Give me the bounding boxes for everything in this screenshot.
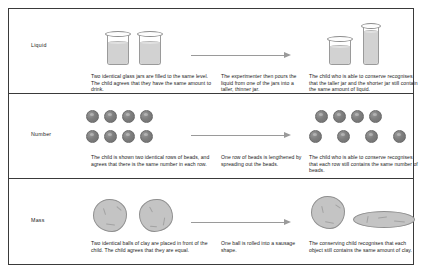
bead [351, 110, 364, 123]
jar-liquid [330, 46, 350, 64]
jar-short [327, 36, 353, 65]
jar-liquid-surface [364, 30, 378, 33]
clay-crease [106, 223, 115, 225]
bead [104, 130, 117, 143]
arrow-shaft [191, 135, 285, 136]
bead [122, 130, 135, 143]
clay-crease [321, 206, 323, 213]
clay-crease [149, 207, 153, 213]
bead [86, 130, 99, 143]
clay-ball [139, 199, 173, 232]
clay-ball [311, 196, 345, 229]
clay-crease [325, 221, 334, 224]
jar-liquid-surface [140, 41, 160, 44]
jar-rim [361, 23, 381, 29]
arrow-shaft [191, 222, 285, 223]
jar-liquid-surface [108, 41, 128, 44]
jar-right [137, 31, 163, 65]
figure-row-mass: Mass [9, 179, 413, 265]
row-label-liquid: Liquid [31, 42, 91, 48]
jar-rim [105, 31, 131, 37]
jar-rim [327, 36, 353, 42]
bead [337, 130, 350, 143]
row-label-mass: Mass [31, 217, 91, 223]
jar-rim [137, 31, 163, 37]
arrow-head [284, 219, 291, 225]
conservation-tasks-figure: Liquid [8, 8, 414, 265]
jar-liquid [108, 42, 128, 64]
caption-transform: One ball is rolled into a sausage shape. [221, 240, 303, 253]
clay-crease [366, 216, 368, 223]
jar-liquid [364, 31, 378, 64]
arrow-head [284, 52, 291, 58]
jar-tall-thin [361, 23, 381, 65]
clay-sausage [353, 211, 415, 228]
bead [393, 130, 406, 143]
figure-row-number: Number The child is show [9, 94, 413, 179]
arrow-shaft [191, 55, 285, 56]
caption-before: Two identical balls of clay are placed i… [91, 240, 211, 253]
clay-crease [116, 206, 121, 211]
clay-ball [93, 199, 127, 232]
clay-crease [378, 216, 387, 218]
jar-liquid-surface [330, 45, 350, 48]
caption-after: The child who is able to conserve recogn… [309, 73, 421, 93]
right-arrow-icon [191, 219, 291, 226]
caption-transform: One row of beads is lengthened by spread… [221, 154, 303, 167]
clay-crease [163, 217, 165, 225]
bead [122, 110, 135, 123]
caption-transform: The experimenter then pours the liquid f… [221, 73, 303, 93]
jar-body [107, 34, 129, 65]
bead [140, 130, 153, 143]
bead [104, 110, 117, 123]
bead [365, 130, 378, 143]
jar-liquid [140, 42, 160, 64]
figure-row-liquid: Liquid [9, 9, 413, 94]
clay-crease [394, 220, 405, 222]
right-arrow-icon [191, 52, 291, 59]
jar-body [363, 26, 379, 65]
clay-crease [335, 204, 340, 208]
caption-after: The child who is able to conserve recogn… [309, 154, 421, 174]
jar-left [105, 31, 131, 65]
right-arrow-icon [191, 132, 291, 139]
caption-after: The conserving child recognises that eac… [309, 240, 421, 253]
bead [309, 130, 322, 143]
caption-before: The child is shown two identical rows of… [91, 154, 211, 167]
jar-body [329, 39, 351, 65]
bead [140, 110, 153, 123]
jar-body [139, 34, 161, 65]
bead [333, 110, 346, 123]
clay-crease [150, 226, 157, 228]
arrow-head [284, 132, 291, 138]
bead [315, 110, 328, 123]
bead [369, 110, 382, 123]
bead [86, 110, 99, 123]
clay-crease [103, 208, 106, 215]
row-label-number: Number [31, 131, 91, 137]
caption-before: Two identical glass jars are filled to t… [91, 73, 211, 93]
